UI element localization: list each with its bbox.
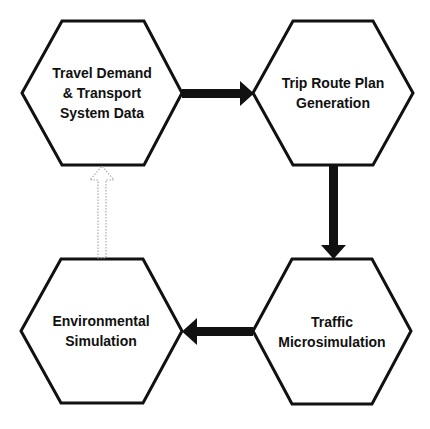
node-traffic-micro-label: Traffic Microsimulation [278,312,385,352]
node-trip-route-label: Trip Route Plan Generation [282,73,385,113]
arrow-down-icon [321,165,346,259]
arrow-right-icon [182,81,254,106]
arrow-left-icon [182,318,253,345]
node-travel-demand-label: Travel Demand & Transport System Data [52,63,152,123]
dotted-arrow-up-icon [90,166,114,258]
node-environmental-label: Environmental Simulation [52,311,149,351]
